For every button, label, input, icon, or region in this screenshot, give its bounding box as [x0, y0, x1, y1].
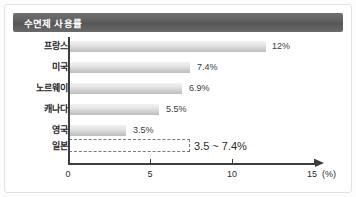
bar-france	[69, 41, 266, 52]
y-axis-line	[68, 37, 70, 164]
x-tick-label-10: 10	[227, 169, 237, 179]
x-tick-0	[68, 159, 69, 164]
bar-row: 캐나다 5.5%	[0, 103, 356, 116]
category-label-norway: 노르웨이	[0, 82, 68, 95]
x-axis-unit-label: (%)	[322, 169, 336, 179]
bar-canada	[69, 104, 159, 115]
x-tick-label-5: 5	[147, 169, 152, 179]
value-label-usa: 7.4%	[197, 61, 218, 74]
category-label-canada: 캐나다	[0, 103, 68, 116]
category-label-uk: 영국	[0, 124, 68, 137]
value-label-japan: 3.5 ~ 7.4%	[194, 138, 247, 155]
bar-row: 노르웨이 6.9%	[0, 82, 356, 95]
value-label-norway: 6.9%	[189, 82, 210, 95]
x-tick-5	[150, 159, 151, 164]
range-row-japan: 일본 3.5 ~ 7.4%	[0, 138, 356, 155]
bar-row: 미국 7.4%	[0, 61, 356, 74]
x-tick-15	[314, 159, 315, 164]
x-axis-line	[68, 163, 317, 165]
x-tick-label-0: 0	[65, 169, 70, 179]
x-tick-10	[232, 159, 233, 164]
x-axis-arrow-icon	[315, 159, 324, 167]
value-label-france: 12%	[272, 40, 290, 53]
chart-figure: 수면제 사용률 프랑스 12% 미국 7.4% 노르웨이 6.9% 캐나다 5.…	[0, 0, 356, 197]
value-label-uk: 3.5%	[133, 124, 154, 137]
bar-row: 영국 3.5%	[0, 124, 356, 137]
x-tick-label-15: 15	[307, 169, 317, 179]
category-label-france: 프랑스	[0, 40, 68, 53]
bar-row: 프랑스 12%	[0, 40, 356, 53]
category-label-usa: 미국	[0, 61, 68, 74]
range-box-japan	[69, 139, 190, 152]
bar-uk	[69, 125, 126, 136]
value-label-canada: 5.5%	[166, 103, 187, 116]
category-label-japan: 일본	[0, 138, 68, 155]
plot-area: 프랑스 12% 미국 7.4% 노르웨이 6.9% 캐나다 5.5% 영국 3.…	[0, 0, 356, 197]
bar-norway	[69, 83, 182, 94]
bar-usa	[69, 62, 190, 73]
